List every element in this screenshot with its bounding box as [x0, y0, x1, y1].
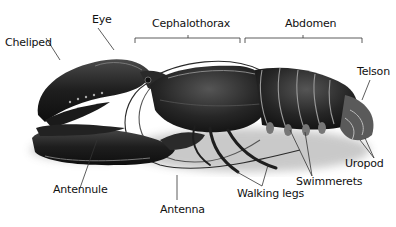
label-antennule: Antennule — [53, 184, 108, 195]
label-antenna: Antenna — [160, 204, 205, 215]
label-abdomen: Abdomen — [285, 18, 336, 29]
bracket-lines — [135, 35, 362, 43]
label-uropod: Uropod — [345, 158, 384, 169]
eye-leader — [98, 28, 114, 50]
cephalothorax-body — [150, 66, 268, 133]
eye-dot — [145, 77, 151, 83]
abdomen-bracket — [245, 38, 362, 43]
label-swimmerets: Swimmerets — [296, 176, 362, 187]
cheliped-lower — [32, 124, 175, 165]
lobster-anatomy-diagram: Cheliped Eye Cephalothorax Abdomen Telso… — [0, 0, 396, 227]
label-walking-legs: Walking legs — [237, 188, 304, 199]
label-cheliped: Cheliped — [5, 37, 52, 48]
tail-fan — [340, 95, 373, 140]
label-cephalothorax: Cephalothorax — [152, 18, 230, 29]
label-eye: Eye — [92, 14, 112, 25]
cephalothorax-bracket — [135, 38, 240, 43]
telson-leader — [362, 80, 370, 100]
cheliped-upper — [38, 59, 150, 128]
label-telson: Telson — [357, 66, 390, 77]
